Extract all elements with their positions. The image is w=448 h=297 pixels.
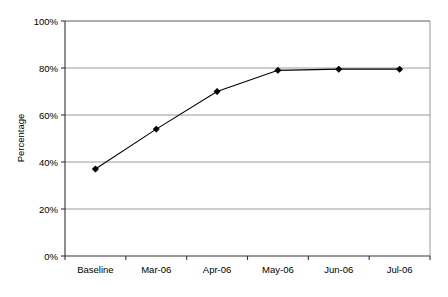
y-tick-label: 0% (44, 251, 58, 262)
x-tick-label: Mar-06 (141, 264, 171, 275)
x-tick-label: Baseline (77, 264, 113, 275)
x-tick-label: May-06 (262, 264, 294, 275)
y-tick-label: 60% (39, 110, 59, 121)
x-tick-label: Apr-06 (203, 264, 232, 275)
y-axis-ticks (61, 21, 65, 256)
y-axis-title: Percentage (15, 114, 26, 163)
x-tick-label: Jul-06 (387, 264, 413, 275)
x-tick-label: Jun-06 (324, 264, 353, 275)
line-chart: 0%20%40%60%80%100% BaselineMar-06Apr-06M… (0, 0, 448, 297)
x-axis-tick-labels: BaselineMar-06Apr-06May-06Jun-06Jul-06 (77, 264, 412, 275)
y-tick-label: 40% (39, 157, 59, 168)
y-tick-label: 80% (39, 63, 59, 74)
y-tick-label: 100% (34, 16, 59, 27)
chart-canvas: 0%20%40%60%80%100% BaselineMar-06Apr-06M… (0, 0, 448, 297)
y-axis-tick-labels: 0%20%40%60%80%100% (34, 16, 59, 262)
plot-background (65, 21, 430, 256)
y-tick-label: 20% (39, 204, 59, 215)
x-axis-ticks (65, 256, 430, 260)
